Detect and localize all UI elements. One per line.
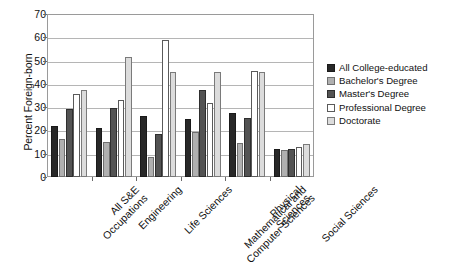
y-axis-tick-mark [43, 177, 47, 178]
bar [192, 132, 199, 177]
y-axis-tick-label: 40 [16, 79, 46, 90]
x-axis-tick-mark [92, 177, 93, 181]
bar-group [92, 14, 137, 177]
bar [148, 157, 155, 177]
y-axis-tick-label: 0 [16, 172, 46, 183]
bar [155, 134, 162, 177]
bar [281, 150, 288, 177]
legend-swatch-icon [327, 64, 335, 72]
bar [214, 72, 221, 177]
bar [170, 72, 177, 177]
bar [103, 142, 110, 177]
bar [199, 90, 206, 177]
legend-item: Doctorate [327, 115, 428, 128]
legend-label: Bachelor's Degree [339, 76, 418, 86]
bar [259, 72, 266, 177]
bar [251, 71, 258, 177]
bar-chart: Percent Foreign-born 010203040506070 All… [0, 0, 450, 262]
bar [237, 143, 244, 177]
bar [274, 149, 281, 177]
bar [81, 90, 88, 177]
bar-group [47, 14, 92, 177]
x-axis-category-label: Life Sciences [183, 184, 235, 236]
bar-group [136, 14, 181, 177]
y-axis-tick-label: 70 [16, 9, 46, 20]
bar [110, 108, 117, 177]
x-axis-tick-mark [270, 177, 271, 181]
legend-item: Bachelor's Degree [327, 74, 428, 87]
legend-item: Master's Degree [327, 88, 428, 101]
bar [229, 113, 236, 177]
bar [185, 119, 192, 177]
bar-groups [47, 14, 314, 177]
legend-swatch-icon [327, 77, 335, 85]
bar [288, 149, 295, 177]
bar-group [270, 14, 315, 177]
x-axis-tick-mark [181, 177, 182, 181]
bar [296, 147, 303, 177]
y-axis-tick-label: 50 [16, 56, 46, 67]
x-axis-tick-mark [136, 177, 137, 181]
bar [59, 139, 66, 177]
bar [51, 126, 58, 177]
y-axis-tick-label: 30 [16, 102, 46, 113]
legend-label: Professional Degree [339, 103, 426, 113]
legend-swatch-icon [327, 117, 335, 125]
bar [66, 109, 73, 177]
bar [96, 128, 103, 177]
legend-label: Master's Degree [339, 89, 409, 99]
bar-group [225, 14, 270, 177]
legend-item: Professional Degree [327, 101, 428, 114]
legend-swatch-icon [327, 104, 335, 112]
bar [118, 100, 125, 177]
y-axis-tick-label: 60 [16, 32, 46, 43]
x-axis-category-label: Social Sciences [319, 184, 380, 245]
bar [125, 57, 132, 177]
x-axis-category-label: Engineering [136, 184, 184, 232]
bar [303, 144, 310, 177]
y-axis-tick-label: 20 [16, 125, 46, 136]
bar [162, 40, 169, 177]
legend: All College-educatedBachelor's DegreeMas… [327, 61, 428, 128]
x-axis-category-label: All S&E Occupations [92, 184, 150, 242]
legend-item: All College-educated [327, 61, 428, 74]
y-axis-tick-label: 10 [16, 149, 46, 160]
legend-label: All College-educated [339, 63, 428, 73]
bar [140, 116, 147, 177]
bar [207, 103, 214, 178]
legend-swatch-icon [327, 90, 335, 98]
x-axis-tick-mark [225, 177, 226, 181]
bar [73, 94, 80, 177]
legend-label: Doctorate [339, 116, 381, 126]
bar-group [181, 14, 226, 177]
bar [244, 118, 251, 177]
